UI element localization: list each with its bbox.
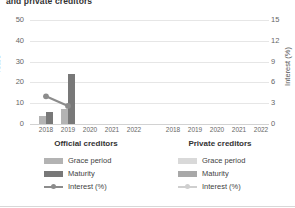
xticks-private: 2018 2019 2020 2021 2022 xyxy=(157,126,269,136)
bottom-divider xyxy=(0,206,295,207)
chart-title: and private creditors xyxy=(6,0,92,6)
ytick-left-30: 30 xyxy=(2,58,24,66)
ytick-left-50: 50 xyxy=(2,16,24,24)
line-official-interest xyxy=(30,20,142,124)
ytick-left-40: 40 xyxy=(2,37,24,45)
ytick-right-3: 3 xyxy=(271,99,293,107)
ytick-right-15: 15 xyxy=(271,16,293,24)
legend-label-interest: Interest (%) xyxy=(202,182,241,191)
y-axis-left-title: Years xyxy=(0,55,2,74)
swatch-interest-line-icon xyxy=(44,184,63,190)
legend-label-maturity: Maturity xyxy=(202,169,229,178)
legend-item-official-interest[interactable]: Interest (%) xyxy=(18,180,154,193)
xtick-private-2019: 2019 xyxy=(183,126,207,134)
legend-item-official-maturity[interactable]: Maturity xyxy=(18,167,154,180)
swatch-maturity-icon xyxy=(44,171,63,177)
legend-title-official: Official creditors xyxy=(18,139,154,149)
legend-title-private: Private creditors xyxy=(152,139,288,149)
swatch-grace-period-icon xyxy=(44,158,63,164)
ytick-right-0: 0 xyxy=(271,120,293,128)
legend-item-private-maturity[interactable]: Maturity xyxy=(152,167,288,180)
legend-item-private-grace-period[interactable]: Grace period xyxy=(152,154,288,167)
xtick-private-2021: 2021 xyxy=(227,126,251,134)
panel-official-creditors xyxy=(30,20,142,124)
legend-label-grace-period: Grace period xyxy=(68,156,111,165)
xtick-official-2018: 2018 xyxy=(34,126,58,134)
swatch-interest-line-icon xyxy=(178,184,197,190)
xtick-private-2018: 2018 xyxy=(161,126,185,134)
xtick-private-2022: 2022 xyxy=(249,126,273,134)
xtick-official-2021: 2021 xyxy=(100,126,124,134)
xtick-private-2020: 2020 xyxy=(205,126,229,134)
legend-label-grace-period: Grace period xyxy=(202,156,245,165)
legend-label-interest: Interest (%) xyxy=(68,182,107,191)
xtick-official-2020: 2020 xyxy=(78,126,102,134)
ytick-right-12: 12 xyxy=(271,37,293,45)
xtick-official-2022: 2022 xyxy=(122,126,146,134)
legend-label-maturity: Maturity xyxy=(68,169,95,178)
ytick-left-10: 10 xyxy=(2,99,24,107)
swatch-maturity-icon xyxy=(178,171,197,177)
xtick-official-2019: 2019 xyxy=(56,126,80,134)
ytick-left-20: 20 xyxy=(2,78,24,86)
axis-baseline xyxy=(30,124,269,125)
line-private-interest xyxy=(157,20,269,124)
legend-item-official-grace-period[interactable]: Grace period xyxy=(18,154,154,167)
plot-area xyxy=(30,20,269,124)
legend-official-creditors: Official creditors Grace period Maturity… xyxy=(18,139,154,193)
legend-private-creditors: Private creditors Grace period Maturity … xyxy=(152,139,288,193)
legend-item-private-interest[interactable]: Interest (%) xyxy=(152,180,288,193)
ytick-left-0: 0 xyxy=(2,120,24,128)
xticks-official: 2018 2019 2020 2021 2022 xyxy=(30,126,142,136)
y-axis-right-title: Interest (%) xyxy=(283,47,292,86)
panel-private-creditors xyxy=(157,20,269,124)
chart-container: and private creditors 50 40 xyxy=(0,0,295,208)
swatch-grace-period-icon xyxy=(178,158,197,164)
